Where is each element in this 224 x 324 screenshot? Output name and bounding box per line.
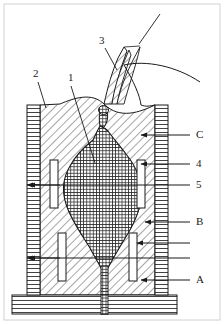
label-3: 3 [99, 35, 105, 46]
right-wall [155, 105, 168, 295]
dome-surface-curve [124, 63, 200, 106]
coil-left-lower [58, 233, 66, 281]
left-wall [27, 105, 40, 295]
leader-line [38, 82, 46, 108]
label-A: A [196, 274, 204, 285]
furnace-cross-section-diagram [0, 0, 224, 324]
figure-canvas: 2 1 3 C 4 5 B A [0, 0, 224, 324]
coil-left-upper [50, 160, 58, 208]
label-B: B [196, 216, 203, 227]
arc-spike-region [104, 14, 160, 104]
base-slab [12, 295, 177, 314]
label-C: C [196, 129, 203, 140]
coil-right-upper [137, 160, 145, 208]
leader-line [105, 48, 117, 70]
label-1: 1 [68, 72, 74, 83]
label-4: 4 [196, 158, 202, 169]
label-5: 5 [196, 179, 202, 190]
label-2: 2 [33, 68, 39, 79]
coil-right-lower [129, 233, 137, 281]
